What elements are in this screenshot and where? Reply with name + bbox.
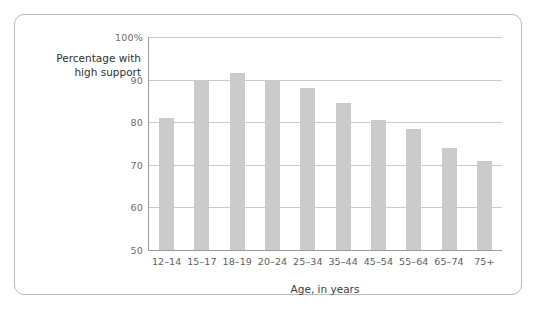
x-axis-title: Age, in years — [148, 283, 502, 295]
x-tick-label-15-17: 15–17 — [187, 256, 216, 267]
y-tick-label-100: 100% — [115, 32, 143, 43]
bar-18-19 — [230, 73, 245, 250]
bar-75-plus — [477, 161, 492, 250]
bar-35-44 — [336, 103, 351, 250]
bar-series: 12–14 15–17 18–19 20–24 25–34 — [149, 37, 502, 250]
bar-55-64 — [406, 129, 421, 250]
gridline-50: 50 — [149, 250, 502, 251]
bar-slot: 25–34 — [290, 37, 325, 250]
x-tick-label-35-44: 35–44 — [328, 256, 357, 267]
bar-slot: 15–17 — [184, 37, 219, 250]
plot-area: 100% 90 80 70 60 50 12–14 — [148, 37, 502, 251]
y-axis-title-line1: Percentage with — [56, 52, 141, 64]
y-axis-title-line2: high support — [29, 65, 141, 79]
x-tick-label-45-54: 45–54 — [364, 256, 393, 267]
bar-slot: 12–14 — [149, 37, 184, 250]
bar-slot: 65–74 — [431, 37, 466, 250]
x-tick-label-20-24: 20–24 — [258, 256, 287, 267]
bar-slot: 20–24 — [255, 37, 290, 250]
bar-20-24 — [265, 80, 280, 250]
bar-15-17 — [194, 80, 209, 250]
bar-slot: 75+ — [467, 37, 502, 250]
bar-25-34 — [300, 88, 315, 250]
bar-slot: 45–54 — [361, 37, 396, 250]
x-tick-label-75-plus: 75+ — [474, 256, 494, 267]
x-tick-label-25-34: 25–34 — [293, 256, 322, 267]
bar-chart: Percentage with high support 100% 90 80 … — [15, 15, 523, 296]
bar-slot: 18–19 — [220, 37, 255, 250]
y-axis-title: Percentage with high support — [29, 51, 141, 79]
x-tick-label-12-14: 12–14 — [152, 256, 181, 267]
bar-45-54 — [371, 120, 386, 250]
bar-12-14 — [159, 118, 174, 250]
x-tick-label-55-64: 55–64 — [399, 256, 428, 267]
y-tick-label-70: 70 — [131, 159, 144, 170]
y-tick-label-90: 90 — [131, 74, 144, 85]
bar-65-74 — [442, 148, 457, 250]
figure-frame: Percentage with high support 100% 90 80 … — [14, 14, 522, 295]
bar-slot: 55–64 — [396, 37, 431, 250]
y-tick-label-50: 50 — [131, 245, 144, 256]
x-tick-label-65-74: 65–74 — [434, 256, 463, 267]
y-tick-label-60: 60 — [131, 202, 144, 213]
y-tick-label-80: 80 — [131, 117, 144, 128]
bar-slot: 35–44 — [325, 37, 360, 250]
x-tick-label-18-19: 18–19 — [223, 256, 252, 267]
